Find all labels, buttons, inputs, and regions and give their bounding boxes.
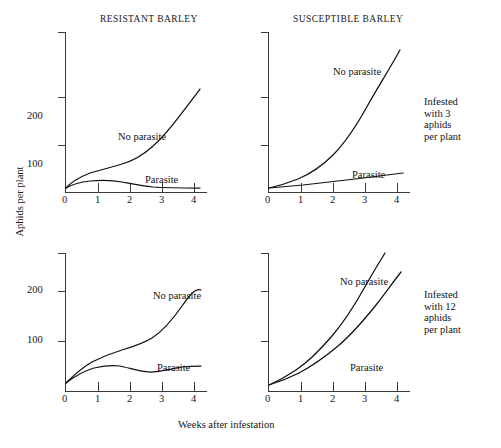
curve-tr-parasite bbox=[269, 173, 403, 188]
axes-top-left bbox=[58, 32, 207, 192]
axis-frame-tr bbox=[268, 32, 410, 192]
axis-frame-br bbox=[268, 253, 410, 391]
curve-br-parasite bbox=[269, 272, 401, 385]
curve-br-no-parasite bbox=[269, 253, 385, 385]
curve-tr-no-parasite bbox=[269, 50, 400, 188]
aphid-population-figure: RESISTANT BARLEY SUSCEPTIBLE BARLEY Aphi… bbox=[0, 0, 501, 448]
curve-bl-parasite bbox=[66, 366, 201, 383]
axes-bottom-right bbox=[261, 253, 410, 391]
axes-top-right bbox=[261, 32, 410, 192]
curve-tl-parasite bbox=[66, 180, 200, 188]
plot-canvas bbox=[0, 0, 501, 448]
curve-tl-no-parasite bbox=[66, 89, 200, 188]
axis-frame-tl bbox=[65, 32, 207, 192]
